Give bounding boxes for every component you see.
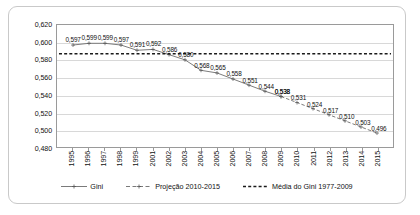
x-axis-tick-label: 2013 [342,151,350,166]
data-point-label: 0,597 [65,36,80,43]
x-axis-tick-label: 1999 [132,151,140,166]
data-point-label: 0,510 [339,113,354,120]
data-point-label: 0,591 [130,41,145,48]
y-axis-tick-label: 0,480 [35,145,52,153]
legend-label: Gini [90,182,103,191]
y-axis-tick-label: 0,540 [35,92,52,100]
data-point-label: 0,544 [259,83,274,90]
data-point-label: 0,538 [275,88,290,95]
y-axis-tick-label: 0,560 [35,74,52,82]
data-point-label: 0,524 [307,101,322,108]
data-point-label: 0,496 [371,125,386,132]
y-axis-tick-label: 0,500 [35,127,52,135]
x-axis-tick-label: 2009 [277,151,285,166]
legend-swatch [126,183,152,190]
x-axis-tick-label: 2005 [213,151,221,166]
x-axis-tick-label: 2004 [197,151,205,166]
data-point-label: 0,586 [162,46,177,53]
x-axis-tick-label: 2002 [165,151,173,166]
y-axis-tick-label: 0,620 [35,21,52,29]
y-axis-tick-label: 0,580 [35,56,52,64]
series-lines [57,25,393,147]
data-point-label: 0,568 [194,62,209,69]
legend-item[interactable]: Gini [61,182,103,191]
data-point-label: 0,599 [82,34,97,41]
data-point-label: 0,531 [291,94,306,101]
data-point-label: 0,599 [98,34,113,41]
data-point-label: 0,558 [226,70,241,77]
x-axis-tick-label: 2006 [229,151,237,166]
legend-item[interactable]: Projeção 2010-2015 [126,182,220,191]
legend-label: Projeção 2010-2015 [155,182,220,191]
data-point-label: 0,517 [323,107,338,114]
plot-area: 0,6200,6000,5800,5600,5400,5200,5000,480 [56,24,394,148]
x-axis-tick-label: 2008 [261,151,269,166]
x-axis-tick-label: 1997 [100,151,108,166]
data-point-label: 0,597 [114,36,129,43]
data-point-label: 0,503 [355,119,370,126]
x-axis-tick-label: 2014 [358,151,366,166]
y-axis-tick-label: 0,600 [35,39,52,47]
x-axis-tick-label: 2012 [326,151,334,166]
y-axis-tick-label: 0,520 [35,110,52,118]
chart-legend: GiniProjeção 2010-2015Média do Gini 1977… [9,182,405,191]
data-point-label: 0,592 [146,40,161,47]
x-axis-tick-label: 1998 [116,151,124,166]
legend-swatch [61,183,87,190]
legend-label: Média do Gini 1977-2009 [272,182,353,191]
x-axis-tick-label: 2003 [181,151,189,166]
data-point-label: 0,551 [243,77,258,84]
chart-card: 0,6200,6000,5800,5600,5400,5200,5000,480… [8,6,406,204]
x-axis-tick-label: 2007 [245,151,253,166]
data-point-label: 0,565 [210,64,225,71]
x-axis-tick-label: 1995 [68,151,76,166]
x-axis-tick-label: 1996 [84,151,92,166]
legend-swatch [243,183,269,190]
x-axis-tick-label: 2011 [310,151,318,166]
x-axis-tick-label: 2010 [293,151,301,166]
x-axis-tick-label: 2015 [374,151,382,166]
x-axis-tick-label: 2001 [149,151,157,166]
data-point-label: 0,580 [178,51,193,58]
legend-item[interactable]: Média do Gini 1977-2009 [243,182,353,191]
